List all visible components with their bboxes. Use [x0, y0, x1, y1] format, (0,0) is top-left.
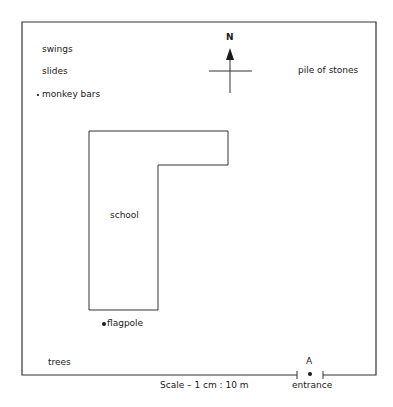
label-flagpole: flagpole: [107, 318, 143, 329]
compass-icon: [209, 48, 252, 93]
label-slides: slides: [42, 66, 68, 77]
north-label: N: [226, 32, 234, 43]
label-trees: trees: [48, 357, 71, 368]
label-school: school: [110, 210, 139, 221]
label-swings: swings: [42, 44, 73, 55]
entrance-marker: [308, 372, 312, 376]
label-pile-of-stones: pile of stones: [298, 65, 358, 76]
scale-label: Scale – 1 cm : 10 m: [160, 380, 249, 391]
label-entrance: entrance: [292, 380, 332, 391]
monkey-bars-marker: [37, 94, 39, 96]
label-monkey-bars: monkey bars: [42, 89, 100, 100]
label-entrance-point: A: [306, 356, 312, 367]
north-arrow-icon: [226, 48, 234, 60]
flagpole-marker: [102, 322, 106, 326]
map-canvas: [0, 0, 393, 407]
